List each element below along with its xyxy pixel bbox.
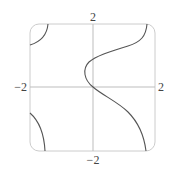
x-min-label: −2 [14,80,27,94]
implicit-curve-plot: 2 −2 −2 2 [0,0,176,171]
y-max-label: 2 [90,10,96,24]
x-max-label: 2 [158,80,164,94]
y-min-label: −2 [87,153,100,167]
curve-bottom-left-branch [30,113,45,151]
